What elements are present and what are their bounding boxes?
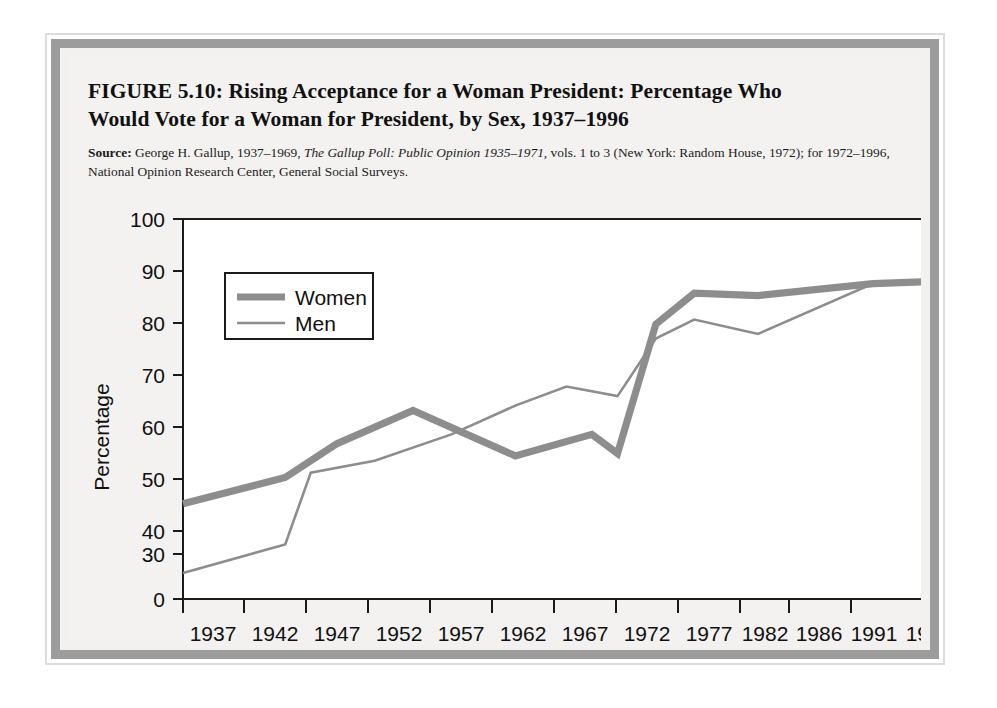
chart-plot-area: 100 90 80 70 60 50 40 30 0 Percentage	[69, 57, 921, 641]
x-tick-label: 1967	[562, 622, 609, 641]
y-tick-label: 60	[142, 416, 165, 439]
y-axis-ticks	[173, 219, 183, 599]
x-tick-label: 1962	[500, 622, 547, 641]
figure-outer-border: FIGURE 5.10: Rising Acceptance for a Wom…	[45, 33, 945, 665]
figure-content: FIGURE 5.10: Rising Acceptance for a Wom…	[69, 57, 921, 641]
x-tick-label: 1991	[851, 622, 898, 641]
x-axis-tick-labels: 1937 1942 1947 1952 1957 1962 1967 1972 …	[190, 622, 921, 641]
y-tick-label: 80	[142, 312, 165, 335]
x-tick-label: 1957	[438, 622, 485, 641]
y-tick-label: 100	[130, 208, 165, 231]
figure-gray-band: FIGURE 5.10: Rising Acceptance for a Wom…	[51, 39, 939, 659]
y-tick-label: 70	[142, 364, 165, 387]
x-tick-label: 1942	[252, 622, 299, 641]
x-tick-label: 1937	[190, 622, 237, 641]
x-tick-label: 1952	[376, 622, 423, 641]
y-tick-label: 0	[153, 588, 165, 611]
y-tick-label: 40	[142, 520, 165, 543]
y-axis-title: Percentage	[90, 383, 113, 490]
x-tick-label: 1972	[624, 622, 671, 641]
chart-legend[interactable]: Women Men	[225, 273, 373, 339]
x-axis-ticks	[183, 599, 921, 613]
x-tick-label: 1947	[314, 622, 361, 641]
y-tick-label: 90	[142, 260, 165, 283]
legend-label-men: Men	[295, 312, 336, 335]
y-axis-tick-labels: 100 90 80 70 60 50 40 30 0	[130, 208, 165, 611]
y-tick-label: 50	[142, 468, 165, 491]
line-chart: 100 90 80 70 60 50 40 30 0 Percentage	[69, 57, 921, 641]
page-canvas: FIGURE 5.10: Rising Acceptance for a Wom…	[0, 0, 997, 708]
y-tick-label: 30	[142, 543, 165, 566]
legend-label-women: Women	[295, 286, 367, 309]
x-tick-label: 1982	[742, 622, 789, 641]
x-tick-label: 1977	[686, 622, 733, 641]
x-tick-label: 1986	[796, 622, 843, 641]
x-tick-label: 1996	[906, 622, 921, 641]
